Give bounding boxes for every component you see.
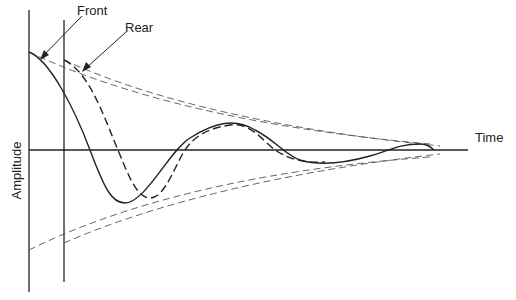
rear-pointer <box>85 32 126 69</box>
front-pointer <box>42 16 82 57</box>
rear-label: Rear <box>125 20 153 35</box>
rear-arrowhead <box>82 62 91 72</box>
damped-oscillation-diagram <box>0 0 516 300</box>
amplitude-axis-label: Amplitude <box>9 141 24 201</box>
front-envelope-lower <box>29 157 430 250</box>
rear-envelope-lower <box>64 154 440 243</box>
time-axis-label: Time <box>475 130 503 145</box>
rear-envelope-upper <box>64 60 440 146</box>
front-curve <box>29 52 434 203</box>
front-label: Front <box>77 3 107 18</box>
